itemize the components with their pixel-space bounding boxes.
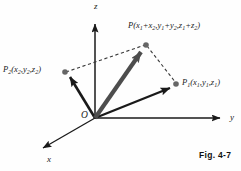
p-label-seg-0: P(x [128, 20, 140, 30]
p-label-seg-10: +z [185, 20, 194, 30]
p-label-seg-7: 2 [174, 25, 177, 31]
p2-label-seg-1: 2 [8, 69, 11, 75]
p1-label-seg-7: 1 [214, 82, 217, 88]
origin-label: O [81, 111, 88, 121]
figure-caption: Fig. 4-7 [199, 150, 231, 160]
p1-label-seg-2: (x [190, 77, 197, 87]
x-axis [43, 118, 95, 148]
p-label-seg-12: ) [197, 20, 200, 30]
p2-label-seg-5: 2 [27, 69, 30, 75]
z-axis-label: z [94, 2, 98, 11]
p-label-seg-11: 2 [194, 25, 197, 31]
p-label-seg-9: 1 [182, 25, 185, 31]
p-label-seg-1: 1 [140, 25, 143, 31]
p1-label-seg-5: 1 [206, 82, 209, 88]
point-label-p-sum: P(x1+x2,y1+y2,z1+z2) [128, 21, 200, 30]
p-label-seg-6: +y [164, 20, 174, 30]
p1-label-seg-1: 1 [187, 82, 190, 88]
point-label-p2: P2(x2,y2,z2) [3, 65, 41, 74]
p2-label-seg-7: 2 [35, 69, 38, 75]
y-axis-label: y [230, 113, 234, 122]
p-label-seg-2: +x [143, 20, 153, 30]
x-axis-label: x [47, 155, 51, 164]
p1-label-seg-4: ,y [200, 77, 206, 87]
dashed-line-p-to-p1 [147, 46, 176, 83]
p-label-seg-5: 1 [161, 25, 164, 31]
p2-label-seg-3: 2 [18, 69, 21, 75]
point-label-p1: P1(x1,y1,z1) [182, 78, 220, 87]
vectors-group [70, 52, 170, 118]
p1-label-seg-3: 1 [197, 82, 200, 88]
p2-label-seg-2: (x [11, 64, 18, 74]
p1-label-seg-8: ) [217, 77, 220, 87]
point-dot-p [143, 42, 149, 48]
point-dot-p2 [62, 69, 68, 75]
dashed-line-p2-to-p [66, 45, 145, 72]
p-label-seg-3: 2 [152, 25, 155, 31]
p2-label-seg-4: ,y [21, 64, 27, 74]
figure-container: z y x O P(x1+x2,y1+y2,z1+z2) P1(x1,y1,z1… [0, 0, 241, 171]
p2-label-seg-8: ) [38, 64, 41, 74]
point-dot-p1 [173, 81, 179, 87]
